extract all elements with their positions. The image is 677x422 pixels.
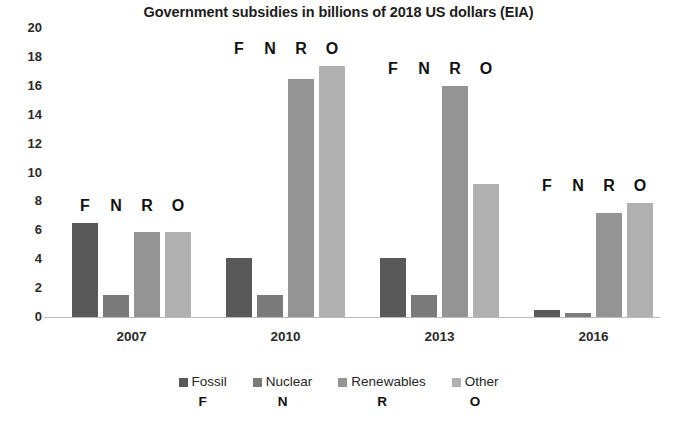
bar-annotation-N: N xyxy=(103,198,129,214)
legend-swatch-icon xyxy=(179,378,188,387)
bar-nuclear-2016 xyxy=(565,313,591,317)
legend-item-nuclear[interactable]: NuclearN xyxy=(253,375,313,408)
bar-annotation-F: F xyxy=(72,198,98,214)
bar-group-annotations: FNRO xyxy=(534,178,653,194)
legend-key-letter: O xyxy=(470,395,481,409)
legend-label: Other xyxy=(465,375,499,390)
legend-label: Renewables xyxy=(351,375,425,390)
legend-label: Nuclear xyxy=(266,375,313,390)
bar-chart: Government subsidies in billions of 2018… xyxy=(0,0,677,422)
legend-key-letter: F xyxy=(199,395,207,409)
bar-annotation-F: F xyxy=(226,41,252,57)
bar-group-annotations: FNRO xyxy=(380,61,499,77)
legend-item-renewables[interactable]: RenewablesR xyxy=(338,375,425,408)
bar-annotation-N: N xyxy=(565,178,591,194)
bar-annotation-N: N xyxy=(411,61,437,77)
bar-nuclear-2010 xyxy=(257,295,283,317)
y-axis-tick-label: 16 xyxy=(2,79,42,92)
legend-key-letter: R xyxy=(377,395,387,409)
bar-fossil-2013 xyxy=(380,258,406,317)
bar-group xyxy=(72,28,191,317)
bar-renewables-2013 xyxy=(442,86,468,317)
x-axis-label-2007: 2007 xyxy=(72,330,191,344)
x-axis-label-2010: 2010 xyxy=(226,330,345,344)
y-axis-tick-label: 0 xyxy=(2,310,42,323)
bar-group xyxy=(534,28,653,317)
bar-nuclear-2007 xyxy=(103,295,129,317)
bar-group-bars xyxy=(226,28,345,317)
chart-legend: FossilFNuclearNRenewablesROtherO xyxy=(0,375,677,408)
legend-swatch-icon xyxy=(452,378,461,387)
bar-fossil-2007 xyxy=(72,223,98,317)
x-axis-label-2013: 2013 xyxy=(380,330,499,344)
bar-annotation-R: R xyxy=(288,41,314,57)
bar-annotation-F: F xyxy=(534,178,560,194)
bar-group-annotations: FNRO xyxy=(226,41,345,57)
bar-other-2007 xyxy=(165,232,191,317)
y-axis-tick-label: 8 xyxy=(2,194,42,207)
bar-annotation-O: O xyxy=(473,61,499,77)
y-axis: 20181614121086420 xyxy=(0,0,42,422)
x-axis-baseline xyxy=(44,317,660,318)
bar-group-bars xyxy=(534,28,653,317)
legend-item-row: Fossil xyxy=(179,375,227,390)
y-axis-tick-label: 6 xyxy=(2,223,42,236)
legend-item-fossil[interactable]: FossilF xyxy=(179,375,227,408)
legend-item-other[interactable]: OtherO xyxy=(452,375,499,408)
legend-swatch-icon xyxy=(253,378,262,387)
bar-fossil-2010 xyxy=(226,258,252,317)
legend-item-row: Renewables xyxy=(338,375,425,390)
bar-other-2016 xyxy=(627,203,653,317)
bar-group xyxy=(226,28,345,317)
x-axis-label-2016: 2016 xyxy=(534,330,653,344)
bar-annotation-R: R xyxy=(596,178,622,194)
bar-other-2013 xyxy=(473,184,499,317)
bar-annotation-O: O xyxy=(627,178,653,194)
y-axis-tick-label: 20 xyxy=(2,21,42,34)
bar-nuclear-2013 xyxy=(411,295,437,317)
y-axis-tick-label: 12 xyxy=(2,137,42,150)
bar-annotation-F: F xyxy=(380,61,406,77)
bar-other-2010 xyxy=(319,66,345,317)
bar-group-bars xyxy=(72,28,191,317)
legend-label: Fossil xyxy=(192,375,227,390)
y-axis-tick-label: 4 xyxy=(2,252,42,265)
bar-annotation-N: N xyxy=(257,41,283,57)
bar-renewables-2010 xyxy=(288,79,314,317)
bar-annotation-R: R xyxy=(134,198,160,214)
legend-swatch-icon xyxy=(338,378,347,387)
plot-area xyxy=(44,28,660,317)
bar-renewables-2007 xyxy=(134,232,160,317)
legend-item-row: Other xyxy=(452,375,499,390)
y-axis-tick-label: 2 xyxy=(2,281,42,294)
legend-item-row: Nuclear xyxy=(253,375,313,390)
bar-annotation-R: R xyxy=(442,61,468,77)
bar-group-annotations: FNRO xyxy=(72,198,191,214)
bar-renewables-2016 xyxy=(596,213,622,317)
y-axis-tick-label: 18 xyxy=(2,50,42,63)
bar-annotation-O: O xyxy=(165,198,191,214)
y-axis-tick-label: 10 xyxy=(2,166,42,179)
y-axis-tick-label: 14 xyxy=(2,108,42,121)
bar-fossil-2016 xyxy=(534,310,560,317)
chart-title: Government subsidies in billions of 2018… xyxy=(0,4,677,20)
legend-key-letter: N xyxy=(278,395,288,409)
bar-annotation-O: O xyxy=(319,41,345,57)
